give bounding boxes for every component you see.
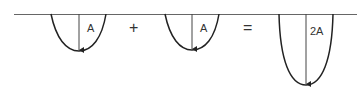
pulse-left: A	[51, 14, 106, 51]
pulse-middle-label: A	[200, 22, 208, 34]
pulse-middle: A	[165, 14, 219, 50]
plus-operator: +	[129, 19, 138, 36]
equals-operator: =	[243, 19, 252, 36]
superposition-diagram: A + A = 2A	[0, 0, 364, 93]
pulse-left-label: A	[87, 22, 95, 34]
pulse-result-label: 2A	[310, 25, 324, 37]
pulse-result: 2A	[279, 14, 333, 85]
